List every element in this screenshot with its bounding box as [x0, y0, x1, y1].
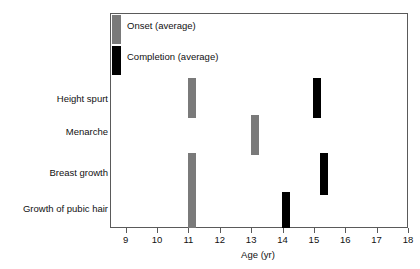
bar-height-spurt-onset	[188, 78, 196, 118]
legend-swatch-completion	[112, 46, 121, 75]
x-tick-label-12: 12	[205, 234, 235, 246]
x-tick-15	[314, 228, 315, 233]
category-label-height-spurt: Height spurt	[57, 93, 108, 104]
x-tick-label-13: 13	[236, 234, 266, 246]
x-tick-9	[126, 228, 127, 233]
legend-label-onset: Onset (average)	[127, 20, 196, 31]
x-tick-label-16: 16	[330, 234, 360, 246]
x-tick-16	[345, 228, 346, 233]
legend-swatch-onset	[112, 15, 121, 44]
x-tick-label-10: 10	[142, 234, 172, 246]
x-tick-14	[283, 228, 284, 233]
bar-growth-of-pubic-hair-onset	[188, 192, 196, 228]
x-tick-11	[188, 228, 189, 233]
x-axis-title: Age (yr)	[0, 249, 420, 260]
bar-breast-growth-onset	[188, 153, 196, 195]
x-tick-label-11: 11	[173, 234, 203, 246]
x-tick-label-18: 18	[393, 234, 420, 246]
x-tick-13	[251, 228, 252, 233]
category-label-menarche: Menarche	[66, 126, 108, 137]
category-label-breast-growth: Breast growth	[49, 167, 108, 178]
category-label-growth-of-pubic-hair: Growth of pubic hair	[23, 203, 108, 214]
bar-menarche-onset	[251, 115, 259, 155]
x-tick-label-9: 9	[111, 234, 141, 246]
legend-label-completion: Completion (average)	[127, 51, 218, 62]
x-tick-10	[157, 228, 158, 233]
bar-growth-of-pubic-hair-completion	[282, 192, 290, 228]
plot-frame	[110, 13, 408, 228]
x-tick-12	[220, 228, 221, 233]
chart-figure: Onset (average) Completion (average) Hei…	[0, 0, 420, 269]
x-tick-label-17: 17	[362, 234, 392, 246]
x-tick-label-15: 15	[299, 234, 329, 246]
x-tick-18	[408, 228, 409, 233]
bar-height-spurt-completion	[313, 78, 321, 118]
x-tick-17	[377, 228, 378, 233]
bar-breast-growth-completion	[320, 153, 328, 195]
x-tick-label-14: 14	[268, 234, 298, 246]
